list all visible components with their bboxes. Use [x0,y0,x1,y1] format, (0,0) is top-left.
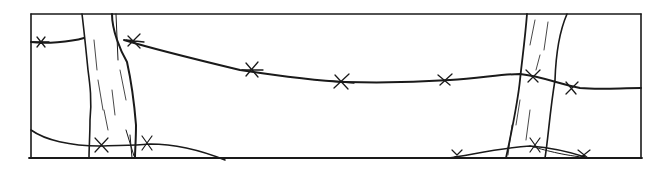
right-post [506,14,567,158]
upper-wire [31,34,641,94]
barb [33,34,578,94]
barbed-wire-fence-illustration [0,0,672,170]
